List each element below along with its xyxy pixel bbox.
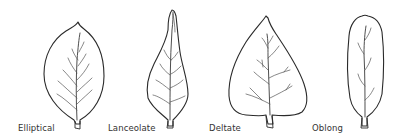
oblong-label: Oblong (312, 123, 343, 133)
deltate-leaf-icon (229, 16, 307, 128)
elliptical-leaf-icon (44, 22, 104, 129)
elliptical-label: Elliptical (18, 123, 55, 133)
lanceolate-label: Lanceolate (108, 123, 156, 133)
oblong-leaf-icon (348, 15, 384, 128)
lanceolate-leaf-icon (147, 10, 188, 128)
deltate-label: Deltate (209, 123, 241, 133)
leaf-shapes-diagram: Elliptical Lanceolate Deltate Oblong (0, 0, 400, 139)
